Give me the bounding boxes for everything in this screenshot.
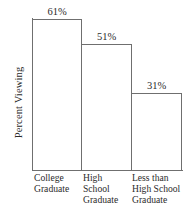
x-tick-label-line: Graduate	[83, 194, 118, 205]
x-tick-label-line: High School	[132, 183, 180, 194]
x-tick-label-college-graduate: College Graduate	[34, 172, 69, 194]
value-label-high-school-graduate: 51%	[81, 31, 132, 42]
y-axis-title-container: Percent Viewing	[10, 48, 28, 156]
x-tick-label-line: College	[34, 172, 69, 183]
x-tick-label-high-school-graduate: High School Graduate	[83, 172, 118, 205]
x-tick-label-less-than-high-school-graduate: Less than High School Graduate	[132, 172, 180, 205]
x-tick-label-line: Graduate	[34, 183, 69, 194]
x-tick-label-line: Less than	[132, 172, 180, 183]
x-tick-label-line: School	[83, 183, 118, 194]
x-axis-line	[32, 170, 183, 171]
x-tick-label-line: Graduate	[132, 194, 180, 205]
y-axis-title: Percent Viewing	[14, 66, 25, 138]
plot-area: 61% 51% 31%	[32, 14, 183, 171]
x-axis-tick-labels: College Graduate High School Graduate Le…	[32, 172, 194, 212]
bar-chart: Percent Viewing 61% 51% 31% College Grad…	[0, 0, 194, 212]
value-label-college-graduate: 61%	[32, 6, 82, 17]
bar-college-graduate	[32, 19, 82, 170]
x-tick-label-line: High	[83, 172, 118, 183]
bar-high-school-graduate	[81, 44, 132, 170]
value-label-less-than-high-school-graduate: 31%	[131, 80, 182, 91]
bar-less-than-high-school-graduate	[131, 93, 182, 170]
